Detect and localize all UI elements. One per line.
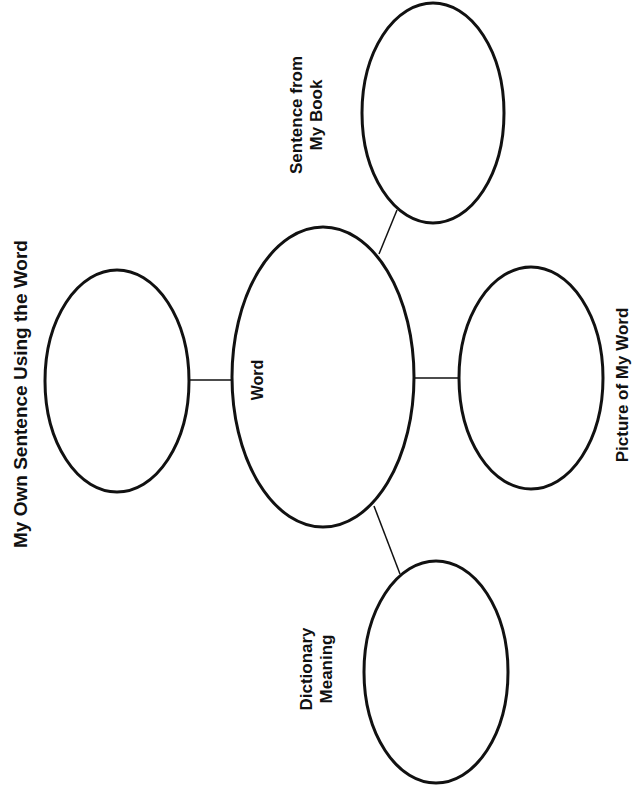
sentence-book-label-line1: Sentence from [287,56,307,174]
sentence-book-label: Sentence from My Book [287,56,328,174]
dictionary-label-line1: Dictionary [297,627,317,710]
dictionary-label: Dictionary Meaning [297,627,338,710]
own-sentence-label: My Own Sentence Using the Word [10,240,33,548]
connector-sentence-book [379,210,397,254]
own-sentence-ellipse [45,270,189,492]
picture-ellipse [459,267,603,489]
sentence-book-label-line2: My Book [307,56,327,174]
connector-dictionary [374,506,400,574]
center-word-label: Word [248,360,267,401]
dictionary-ellipse [364,561,508,783]
dictionary-label-line2: Meaning [317,627,337,710]
sentence-book-ellipse [362,3,504,223]
picture-label: Picture of My Word [613,308,633,463]
